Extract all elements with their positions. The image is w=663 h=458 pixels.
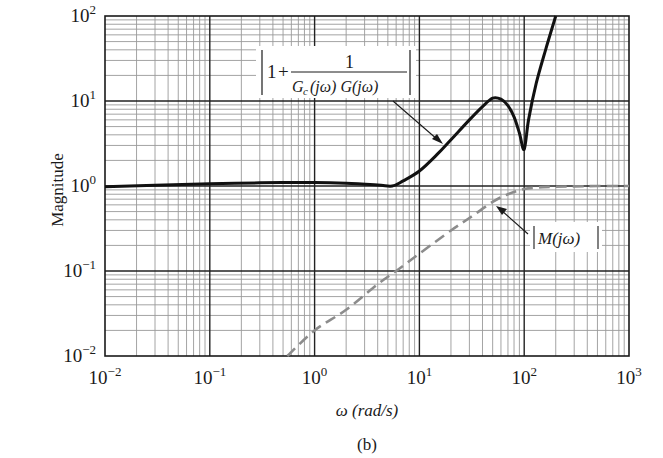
figure-caption: (b): [357, 435, 377, 454]
x-tick-label: 10−1: [193, 364, 226, 388]
bode-magnitude-chart: 1 + 1 G c (jω) G(jω) M(jω) 10−210−110010…: [0, 0, 663, 458]
y-tick-label: 101: [71, 87, 97, 111]
x-tick-label: 101: [407, 364, 433, 388]
annotation-closed-loop-label: M(jω): [530, 222, 602, 252]
annot-one: 1: [267, 61, 277, 82]
annotation-arrow-1: [393, 101, 443, 144]
annot-plus: +: [278, 61, 289, 82]
x-tick-label: 10−2: [89, 364, 122, 388]
x-tick-label: 102: [511, 364, 537, 388]
annot-den-sub: c: [303, 85, 308, 97]
y-tick-label: 10−2: [63, 342, 96, 366]
annot-den-rest: (jω) G(jω): [310, 78, 378, 96]
y-tick-label: 10−1: [63, 257, 96, 281]
annotation-open-loop-label: 1 + 1 G c (jω) G(jω): [256, 46, 416, 98]
x-axis-ticks: 10−210−1100101102103: [89, 364, 642, 388]
x-tick-label: 103: [616, 364, 642, 388]
x-axis-label: ω (rad/s): [336, 401, 399, 420]
x-tick-label: 100: [302, 364, 328, 388]
y-tick-label: 102: [71, 2, 97, 26]
annot-numerator: 1: [345, 52, 354, 72]
annot-m-text: M(jω): [537, 229, 581, 248]
y-axis-label: Magnitude: [48, 153, 67, 227]
y-tick-label: 100: [71, 172, 97, 196]
y-axis-ticks: 10−210−1100101102: [63, 2, 96, 366]
